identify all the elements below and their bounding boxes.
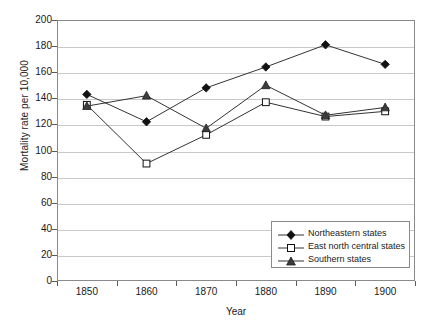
data-point-open-square: [262, 99, 269, 106]
legend-marker-open-square-icon: [277, 240, 305, 252]
data-point-filled-triangle: [202, 124, 210, 132]
legend-marker-filled-diamond-icon: [277, 227, 305, 239]
data-point-filled-diamond: [142, 118, 150, 126]
series-southern-states: [83, 81, 390, 132]
data-point-open-square: [143, 160, 150, 167]
data-point-filled-diamond: [321, 41, 329, 49]
legend-label: Northeastern states: [305, 227, 387, 239]
legend-marker-filled-triangle-icon: [277, 253, 305, 265]
legend-item[interactable]: East north central states: [277, 239, 406, 252]
data-point-filled-diamond: [202, 84, 210, 92]
data-point-open-square: [203, 131, 210, 138]
data-point-filled-triangle: [381, 103, 389, 111]
series-east-north-central-states: [83, 99, 388, 167]
series-line: [87, 45, 385, 122]
data-series-layer: [0, 0, 433, 327]
data-point-filled-triangle: [142, 91, 150, 99]
legend-label: East north central states: [305, 240, 405, 252]
chart-legend: Northeastern states East north central s…: [271, 221, 410, 268]
mortality-rate-line-chart: 020406080100120140160180200 185018601870…: [0, 0, 433, 327]
data-point-filled-triangle: [262, 81, 270, 89]
series-line: [87, 85, 385, 128]
data-point-filled-diamond: [381, 60, 389, 68]
legend-label: Southern states: [305, 253, 371, 265]
series-line: [87, 102, 385, 163]
data-point-filled-diamond: [83, 90, 91, 98]
legend-item[interactable]: Southern states: [277, 252, 406, 265]
legend-item[interactable]: Northeastern states: [277, 226, 406, 239]
data-point-filled-diamond: [262, 63, 270, 71]
